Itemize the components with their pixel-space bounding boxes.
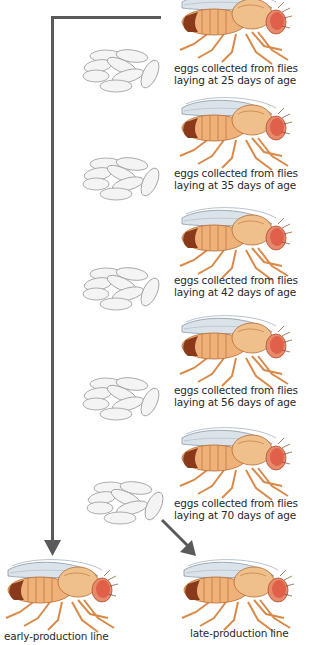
caption-line-2: laying at 70 days of age [174,509,298,521]
early-production-label: early-production line [4,630,108,642]
caption-line-2: laying at 42 days of age [174,286,298,298]
egg-cluster-icon [88,478,168,528]
generation-caption: eggs collected from flies laying at 70 d… [174,497,298,521]
fruit-fly-icon [172,100,302,170]
caption-line-1: eggs collected from flies [174,497,298,509]
generation-caption: eggs collected from flies laying at 42 d… [174,274,298,298]
egg-cluster-icon [84,374,164,424]
caption-line-2: laying at 56 days of age [174,396,298,408]
fruit-fly-icon [172,0,302,64]
fruit-fly-icon [172,430,302,500]
early-line-fly-icon [0,562,128,632]
egg-cluster-icon [84,264,164,314]
generation-caption: eggs collected from flies laying at 25 d… [174,62,298,86]
late-line-fly-icon [174,562,304,632]
caption-line-2: laying at 25 days of age [174,74,298,86]
fruit-fly-icon [172,318,302,388]
caption-line-2: laying at 35 days of age [174,179,298,191]
egg-cluster-icon [84,46,164,96]
fruit-fly-icon [172,210,302,280]
late-production-label: late-production line [190,627,288,639]
early-arrow-head-icon [44,540,62,556]
generation-caption: eggs collected from flies laying at 56 d… [174,384,298,408]
egg-cluster-icon [84,154,164,204]
top-connector-line [51,16,161,19]
caption-line-1: eggs collected from flies [174,62,298,74]
generation-caption: eggs collected from flies laying at 35 d… [174,167,298,191]
early-selection-line [51,16,54,546]
caption-line-1: eggs collected from flies [174,274,298,286]
caption-line-1: eggs collected from flies [174,167,298,179]
caption-line-1: eggs collected from flies [174,384,298,396]
